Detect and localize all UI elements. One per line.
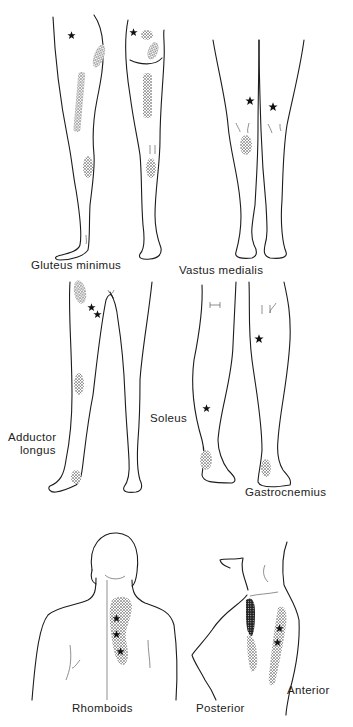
gluteus-referred-zone-buttock-lower [145,41,161,61]
adductor-referred-zone-ankle [71,470,81,484]
vastus-medialis-figure [213,40,304,258]
label-adductor-line1: Adductor [8,431,56,444]
label-vastus-medialis: Vastus medialis [179,264,263,277]
gluteus-referred-zone-thigh [73,72,85,132]
trigger-point-star-icon [67,31,75,39]
gluteus-minimus-figure [53,15,164,260]
scalene-figure [192,542,299,715]
soleus-referred-zone-heel [200,450,212,470]
gastrocnemius-referred-zone-heel [261,459,271,477]
label-anterior: Anterior [287,684,330,697]
anatomy-illustration [0,0,353,727]
gluteus-referred-zone-posterior-thigh [143,73,152,118]
gluteus-referred-zone-buttock-upper [141,30,153,40]
trigger-point-star-icon [129,28,137,36]
trigger-point-star-icon [245,96,254,105]
trigger-point-star-icon [93,310,101,318]
gluteus-referred-zone-calf [83,156,93,178]
gluteus-referred-zone-hip [90,43,108,69]
trigger-point-star-icon [87,303,95,311]
trigger-point-star-icon [202,404,210,412]
posterior-referred-zone-dark [246,599,255,637]
adductor-referred-zone-groin [72,279,88,305]
rhomboids-figure [32,533,177,700]
label-gastrocnemius: Gastrocnemius [245,486,326,499]
label-posterior: Posterior [196,702,245,715]
label-adductor-line2: longus [20,444,56,457]
adductor-longus-figure [49,279,152,492]
adductor-referred-zone-knee [74,373,84,395]
label-gluteus-minimus: Gluteus minimus [31,259,121,272]
trigger-point-star-icon [254,334,263,343]
rhomboids-referred-zone [110,597,132,665]
posterior-referred-zone [247,636,257,672]
anterior-referred-zone [269,607,287,685]
gluteus-referred-zone-posterior-calf [146,158,156,178]
vastus-referred-zone-knee [240,135,252,155]
label-rhomboids: Rhomboids [72,702,133,715]
calf-figure [193,282,291,487]
label-soleus: Soleus [150,412,187,425]
trigger-point-star-icon [268,102,277,111]
